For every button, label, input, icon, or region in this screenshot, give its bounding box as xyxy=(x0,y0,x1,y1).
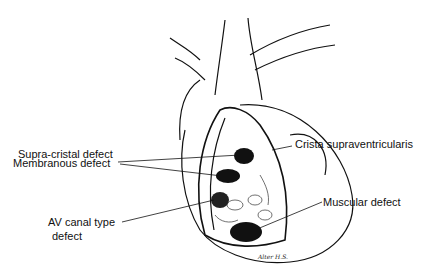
muscular-defect-shape xyxy=(230,222,262,242)
supra-cristal-defect-shape xyxy=(234,148,254,164)
av-canal-defect-label-line1: AV canal type xyxy=(48,216,115,229)
heart-vsd-diagram: Supra-cristal defect Crista supraventric… xyxy=(0,0,430,279)
muscular-defect-label: Muscular defect xyxy=(323,196,401,209)
artist-signature: Alter H.S. xyxy=(258,253,288,260)
membranous-defect-label: Membranous defect xyxy=(13,157,110,170)
av-canal-defect-label-line2: defect xyxy=(52,230,82,243)
crista-supraventricularis-label: Crista supraventricularis xyxy=(295,138,413,151)
